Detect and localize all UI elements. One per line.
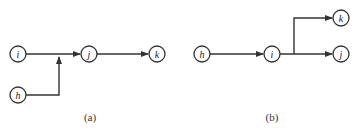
- caption-b: (b): [266, 111, 279, 124]
- node-b-h: h: [194, 46, 210, 62]
- svg-text:k: k: [155, 49, 160, 60]
- svg-text:h: h: [16, 90, 21, 101]
- svg-text:h: h: [200, 49, 205, 60]
- node-b-i: i: [264, 46, 280, 62]
- svg-text:k: k: [339, 13, 344, 24]
- caption-a: (a): [84, 111, 97, 124]
- node-a-h: h: [10, 87, 26, 103]
- node-a-i: i: [10, 46, 26, 62]
- edge-h-merge: [26, 57, 59, 95]
- edge-i-k: [294, 18, 332, 54]
- node-a-k: k: [149, 46, 165, 62]
- node-b-j: j: [333, 46, 349, 62]
- node-b-k: k: [333, 10, 349, 26]
- node-a-j: j: [81, 46, 97, 62]
- svg-text:i: i: [271, 49, 274, 60]
- diagram-a: i j k h (a): [10, 46, 165, 124]
- diagram-canvas: i j k h (a) h i j: [0, 0, 359, 133]
- diagram-b: h i j k (b): [194, 10, 349, 124]
- svg-text:i: i: [17, 49, 20, 60]
